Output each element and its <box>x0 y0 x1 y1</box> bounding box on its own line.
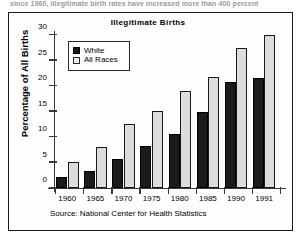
y-tick <box>49 85 57 86</box>
chart-legend: White All Races <box>68 41 130 71</box>
bar-white-1980 <box>169 134 180 188</box>
bar-white-1990 <box>225 82 236 188</box>
bar-all-races-1985 <box>208 77 219 188</box>
bar-all-races-1975 <box>152 111 163 188</box>
x-tick <box>168 187 169 194</box>
bar-all-races-1960 <box>68 162 79 188</box>
bar-white-1985 <box>197 112 208 189</box>
y-tick-label: 10 <box>31 125 47 133</box>
bar-white-1965 <box>84 171 95 188</box>
legend-swatch-all-races-icon <box>73 57 80 64</box>
legend-item-all-races: All Races <box>73 56 125 64</box>
y-tick-label: 30 <box>31 23 47 31</box>
bar-all-races-1965 <box>96 147 107 188</box>
y-tick <box>49 136 57 137</box>
y-tick-label: 25 <box>31 49 47 57</box>
legend-swatch-white-icon <box>73 47 80 54</box>
x-tick-label-1980: 1980 <box>171 194 189 203</box>
bar-all-races-1980 <box>180 91 191 188</box>
y-tick <box>49 34 57 35</box>
y-tick-label: 0 <box>31 176 47 184</box>
bar-all-races-1991 <box>264 35 275 188</box>
x-tick <box>196 187 197 194</box>
y-axis-title: Percentage of All Births <box>19 24 30 144</box>
x-tick-label-1985: 1985 <box>199 194 217 203</box>
x-tick-label-1965: 1965 <box>86 194 104 203</box>
bar-all-races-1970 <box>124 124 135 188</box>
x-tick-label-1990: 1990 <box>227 194 245 203</box>
y-tick <box>49 59 57 60</box>
x-tick-label-1975: 1975 <box>143 194 161 203</box>
bar-white-1975 <box>140 146 151 188</box>
x-tick <box>55 187 56 194</box>
x-tick <box>280 187 281 194</box>
y-tick-label: 5 <box>31 151 47 159</box>
x-tick <box>83 187 84 194</box>
bar-white-1991 <box>253 78 264 188</box>
y-tick <box>49 161 57 162</box>
chart-title: Illegitimate Births <box>88 18 208 27</box>
legend-item-white: White <box>73 47 125 55</box>
y-tick-label: 20 <box>31 74 47 82</box>
bar-white-1970 <box>112 159 123 188</box>
y-tick-label: 15 <box>31 100 47 108</box>
bar-all-races-1990 <box>236 48 247 188</box>
y-axis-line <box>54 31 56 192</box>
y-tick <box>49 110 57 111</box>
x-tick <box>111 187 112 194</box>
x-tick-label-1960: 1960 <box>58 194 76 203</box>
source-note: Source: National Center for Health Stati… <box>50 209 207 218</box>
x-tick <box>224 187 225 194</box>
bar-white-1960 <box>56 177 67 188</box>
legend-label-white: White <box>84 47 104 55</box>
x-tick-label-1970: 1970 <box>115 194 133 203</box>
cut-off-page-caption: since 1960, illegitimate birth rates hav… <box>10 0 294 8</box>
x-tick-label-1991: 1991 <box>255 194 273 203</box>
x-tick <box>252 187 253 194</box>
x-tick <box>139 187 140 194</box>
legend-label-all-races: All Races <box>84 56 118 64</box>
